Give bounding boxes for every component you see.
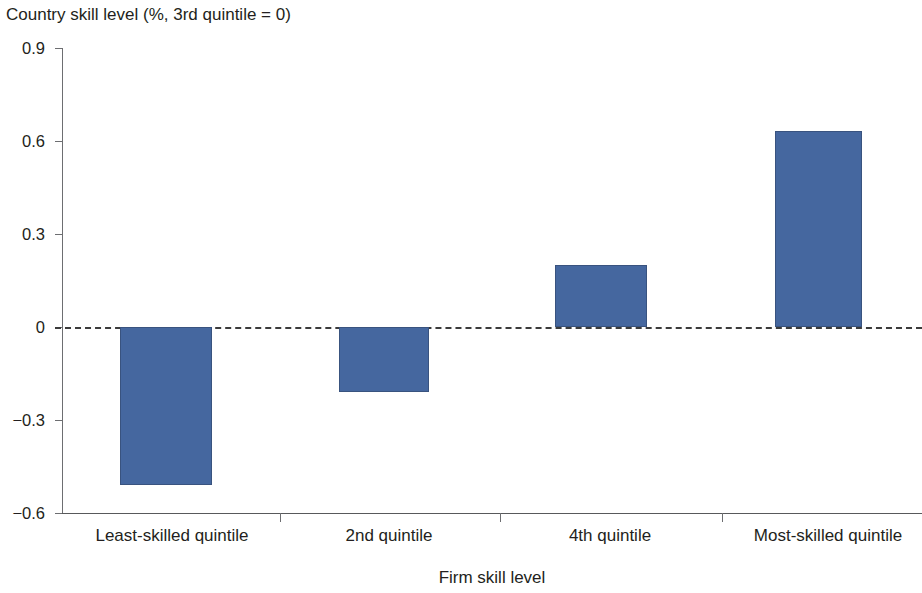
y-tick-4: −0.3 <box>55 420 62 421</box>
plot-area: 0.9 0.6 0.3 0 −0.3 −0.6 Least-skilled qu… <box>62 48 922 513</box>
y-tick-2: 0.3 <box>55 234 62 235</box>
x-axis-title: Firm skill level <box>62 568 922 588</box>
y-tick-0: 0.9 <box>55 48 62 49</box>
y-tick-label-1: 0.6 <box>22 133 45 150</box>
y-tick-label-5: −0.6 <box>12 505 45 522</box>
y-tick-1: 0.6 <box>55 141 62 142</box>
x-tick-divider-2 <box>500 513 501 522</box>
bar-least-skilled-quintile <box>120 327 212 485</box>
x-tick-divider-1 <box>280 513 281 522</box>
y-tick-label-2: 0.3 <box>22 226 45 243</box>
bar-most-skilled-quintile <box>775 131 862 327</box>
y-tick-label-0: 0.9 <box>22 40 45 57</box>
bar-chart-figure: Country skill level (%, 3rd quintile = 0… <box>0 0 922 593</box>
x-tick-divider-3 <box>722 513 723 522</box>
x-axis-line <box>62 513 922 514</box>
y-axis-line <box>62 48 63 513</box>
y-axis-title: Country skill level (%, 3rd quintile = 0… <box>6 5 291 25</box>
y-tick-label-4: −0.3 <box>12 412 45 429</box>
x-category-label-2nd-quintile: 2nd quintile <box>346 526 433 546</box>
y-tick-label-3: 0 <box>36 319 45 336</box>
x-category-label-4th-quintile: 4th quintile <box>569 526 651 546</box>
x-category-label-most-skilled-quintile: Most-skilled quintile <box>754 526 902 546</box>
bar-2nd-quintile <box>339 327 429 392</box>
y-tick-5: −0.6 <box>55 513 62 514</box>
x-category-label-least-skilled-quintile: Least-skilled quintile <box>95 526 248 546</box>
bar-4th-quintile <box>555 265 647 327</box>
